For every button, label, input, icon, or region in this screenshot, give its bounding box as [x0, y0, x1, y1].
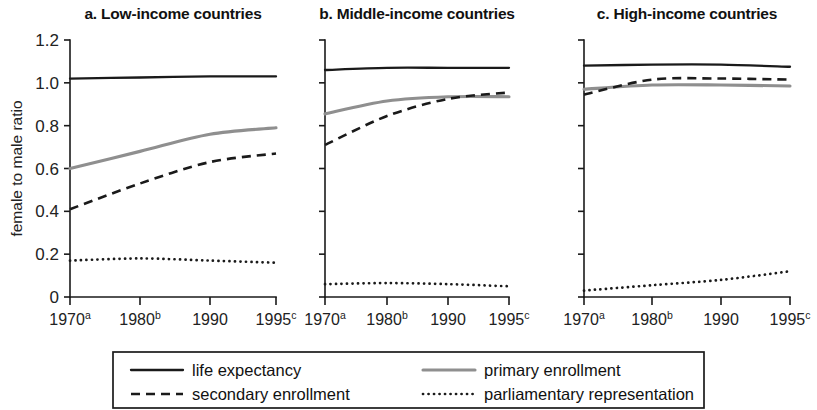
multi-panel-line-chart: a. Low-income countries1.21.00.80.60.40.… [0, 0, 817, 410]
figure-container: a. Low-income countries1.21.00.80.60.40.… [0, 0, 817, 410]
panel-title-middle: b. Middle-income countries [319, 5, 514, 22]
y-tick-label-0.6: 0.6 [35, 160, 59, 179]
y-tick-label-0: 0 [50, 288, 59, 307]
panel-middle: b. Middle-income countries1970a1980b1990… [304, 5, 529, 328]
y-axis-title-text: female to male ratio [8, 100, 25, 236]
panel-high: c. High-income countries1970a1980b199019… [563, 5, 810, 328]
x-tick-label-middle-1990: 1990 [430, 311, 466, 328]
series-life-expectancy-high [584, 64, 790, 66]
legend-label-secondary-enrollment: secondary enrollment [192, 385, 350, 403]
x-tick-label-low-1995: 1995c [256, 309, 297, 328]
x-tick-label-low-1980: 1980b [119, 309, 161, 328]
x-tick-label-high-1970: 1970a [563, 309, 605, 328]
legend-label-primary-enrollment: primary enrollment [484, 361, 621, 379]
series-primary-enrollment-middle [325, 96, 509, 113]
series-life-expectancy-low [70, 76, 276, 78]
x-tick-label-high-1990: 1990 [703, 311, 739, 328]
panel-title-low: a. Low-income countries [84, 5, 261, 22]
y-tick-label-0.8: 0.8 [35, 117, 59, 136]
x-tick-label-low-1990: 1990 [192, 311, 228, 328]
series-life-expectancy-middle [325, 68, 509, 70]
y-tick-label-1.2: 1.2 [35, 31, 59, 50]
legend-label-life-expectancy: life expectancy [192, 361, 302, 379]
x-tick-label-middle-1995: 1995c [489, 309, 530, 328]
series-parliamentary-representation-high [584, 271, 790, 290]
y-tick-label-1.0: 1.0 [35, 74, 59, 93]
x-tick-label-middle-1970: 1970a [304, 309, 346, 328]
y-tick-label-0.4: 0.4 [35, 202, 59, 221]
x-tick-label-high-1995: 1995c [770, 309, 811, 328]
series-parliamentary-representation-middle [325, 283, 509, 286]
series-secondary-enrollment-middle [325, 92, 509, 144]
legend-label-parliamentary-representation: parliamentary representation [484, 385, 694, 403]
x-tick-label-low-1970: 1970a [49, 309, 91, 328]
x-tick-label-high-1980: 1980b [631, 309, 673, 328]
y-axis-title: female to male ratio [8, 100, 25, 236]
series-primary-enrollment-low [70, 128, 276, 169]
legend: life expectancyprimary enrollmentseconda… [113, 352, 704, 408]
panel-title-high: c. High-income countries [597, 5, 777, 22]
x-tick-label-middle-1980: 1980b [366, 309, 408, 328]
series-parliamentary-representation-low [70, 258, 276, 262]
panel-low: a. Low-income countries1.21.00.80.60.40.… [35, 5, 296, 328]
y-tick-label-0.2: 0.2 [35, 245, 59, 264]
